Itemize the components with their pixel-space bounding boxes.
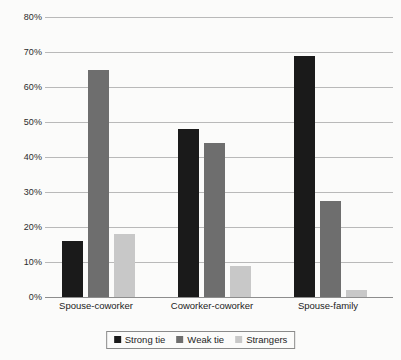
bar-group <box>294 17 362 297</box>
axis-baseline <box>45 297 393 298</box>
y-tick-label: 0% <box>4 292 42 302</box>
y-tick-label: 10% <box>4 257 42 267</box>
y-tick-label: 80% <box>4 12 42 22</box>
bar <box>178 129 199 297</box>
bar <box>88 70 109 298</box>
y-tick-label: 30% <box>4 187 42 197</box>
y-tick-label: 70% <box>4 47 42 57</box>
x-tick-label: Spouse-coworker <box>59 300 133 311</box>
legend-label: Weak tie <box>187 335 224 345</box>
bar <box>346 290 367 297</box>
bar <box>62 241 83 297</box>
bar <box>204 143 225 297</box>
legend-swatch-strangers <box>235 336 242 343</box>
bar <box>320 201 341 297</box>
y-tick-label: 60% <box>4 82 42 92</box>
legend-item[interactable]: Strangers <box>235 335 287 345</box>
x-axis-category-labels: Spouse-coworkerCoworker-coworkerSpouse-f… <box>45 300 393 316</box>
y-tick-label: 40% <box>4 152 42 162</box>
plot-area <box>45 17 393 297</box>
bar <box>114 234 135 297</box>
legend-label: Strangers <box>246 335 287 345</box>
y-tick-label: 20% <box>4 222 42 232</box>
legend-label: Strong tie <box>125 335 166 345</box>
bar-chart-screenshot: 0%10%20%30%40%50%60%70%80% Spouse-cowork… <box>0 0 401 360</box>
bar-group <box>178 17 246 297</box>
legend-item[interactable]: Strong tie <box>114 335 166 345</box>
legend-swatch-weak-tie <box>176 336 183 343</box>
y-axis: 0%10%20%30%40%50%60%70%80% <box>0 17 42 297</box>
bar-group <box>62 17 130 297</box>
chart-legend: Strong tieWeak tieStrangers <box>106 331 296 349</box>
legend-swatch-strong-tie <box>114 336 121 343</box>
x-tick-label: Spouse-family <box>298 300 358 311</box>
x-tick-label: Coworker-coworker <box>171 300 253 311</box>
bar <box>294 56 315 298</box>
legend-item[interactable]: Weak tie <box>176 335 224 345</box>
bar <box>230 266 251 298</box>
y-tick-label: 50% <box>4 117 42 127</box>
